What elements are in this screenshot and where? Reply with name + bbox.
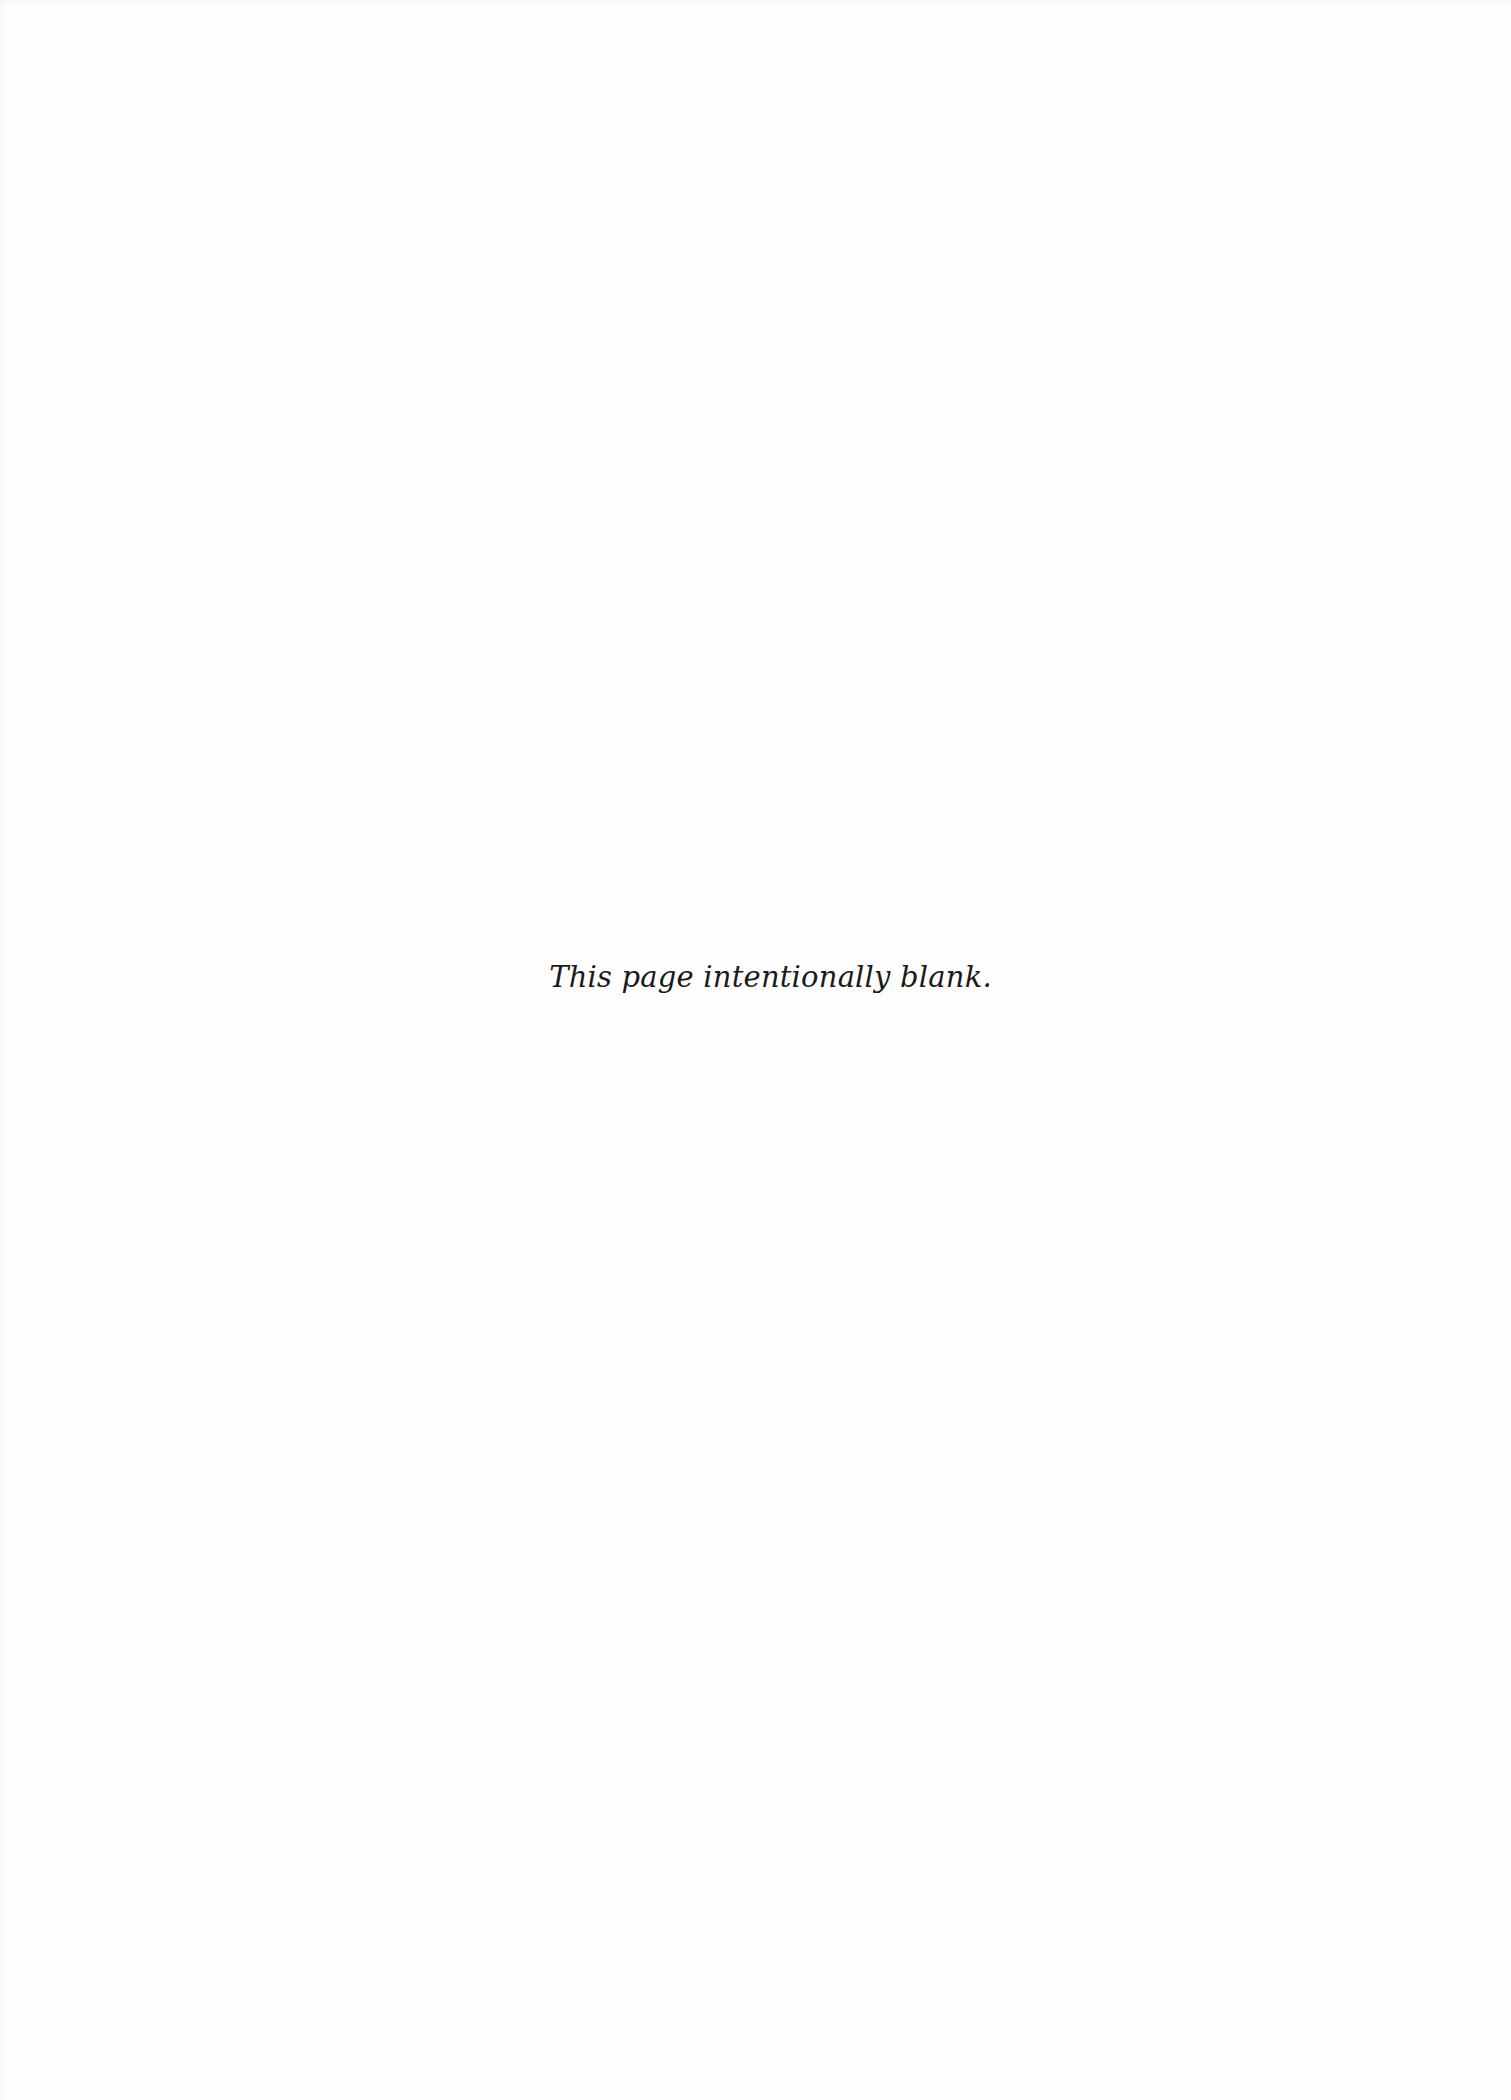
document-page: This page intentionally blank.	[0, 0, 1511, 2100]
blank-page-notice: This page intentionally blank.	[0, 960, 1511, 994]
